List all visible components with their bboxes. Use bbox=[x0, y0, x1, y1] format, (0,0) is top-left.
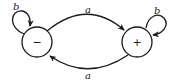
state-diagram: a a b b − + bbox=[0, 0, 173, 82]
edge-minus-to-plus bbox=[47, 14, 124, 31]
self-loop-label-plus: b bbox=[154, 5, 160, 16]
self-loop-label-minus: b bbox=[13, 1, 19, 12]
state-label-minus: − bbox=[32, 36, 41, 49]
edge-label-minus-to-plus: a bbox=[85, 4, 91, 15]
state-label-plus: + bbox=[132, 36, 141, 49]
edge-plus-to-minus bbox=[50, 55, 128, 69]
edge-label-plus-to-minus: a bbox=[85, 70, 91, 81]
